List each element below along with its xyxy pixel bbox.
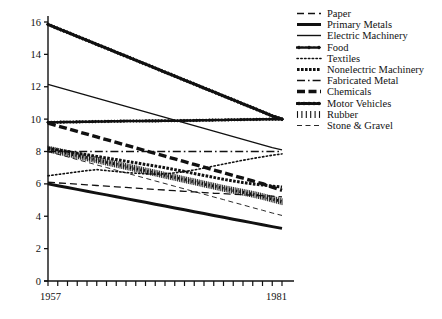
legend-item-label: Stone & Gravel <box>327 120 393 131</box>
fine-dotted-sample <box>296 53 322 64</box>
thick-dotted-marker-sample <box>296 98 322 109</box>
legend-item[interactable]: Textiles <box>296 53 442 64</box>
legend-item[interactable]: Food <box>296 42 442 53</box>
y-tick-label: 14 <box>31 49 42 60</box>
dotted-marker-sample <box>296 42 322 53</box>
plot-area: 024681012141619571981 <box>0 0 300 319</box>
legend-item-label: Fabricated Metal <box>327 75 398 86</box>
thick-dotted-sample <box>296 64 322 75</box>
y-tick-label: 16 <box>31 17 42 28</box>
legend-item[interactable]: Primary Metals <box>296 19 442 30</box>
y-tick-label: 10 <box>31 114 42 125</box>
y-tick-label: 0 <box>36 276 41 287</box>
thin-dashed-sample <box>296 120 322 131</box>
legend-item[interactable]: Paper <box>296 8 442 19</box>
chart-figure: 024681012141619571981 PaperPrimary Metal… <box>0 0 442 319</box>
legend-item-label: Textiles <box>327 53 360 64</box>
legend-item[interactable]: Rubber <box>296 109 442 120</box>
solid-sample <box>296 30 322 41</box>
y-tick-label: 12 <box>31 81 42 92</box>
plot-svg: 024681012141619571981 <box>0 0 300 319</box>
legend-item[interactable]: Chemicals <box>296 86 442 97</box>
y-tick-label: 2 <box>36 243 41 254</box>
x-axis-label-start: 1957 <box>40 291 61 302</box>
legend-item-label: Motor Vehicles <box>327 98 391 109</box>
legend-item[interactable]: Electric Machinery <box>296 30 442 41</box>
legend-marker <box>297 45 301 49</box>
legend-item[interactable]: Stone & Gravel <box>296 120 442 131</box>
x-axis-label-end: 1981 <box>266 291 287 302</box>
hatched-sample <box>296 109 322 120</box>
legend-marker <box>307 45 311 49</box>
dashed-sample <box>296 8 322 19</box>
thick-solid-sample <box>296 19 322 30</box>
legend-marker <box>317 45 321 49</box>
thick-dashed-sample <box>296 86 322 97</box>
dash-dot-sample <box>296 75 322 86</box>
legend-item-label: Chemicals <box>327 86 371 97</box>
y-tick-label: 8 <box>36 146 41 157</box>
legend-item-label: Primary Metals <box>327 19 392 30</box>
chart-legend: PaperPrimary MetalsElectric MachineryFoo… <box>296 8 442 131</box>
y-tick-label: 6 <box>36 178 41 189</box>
series-line-nonelectric-machinery <box>48 148 282 187</box>
legend-item-label: Paper <box>327 8 351 19</box>
y-tick-label: 4 <box>36 211 42 222</box>
legend-item-label: Rubber <box>327 109 358 120</box>
legend-item[interactable]: Motor Vehicles <box>296 98 442 109</box>
legend-item[interactable]: Fabricated Metal <box>296 75 442 86</box>
legend-item-label: Electric Machinery <box>327 30 408 41</box>
legend-item-label: Food <box>327 42 349 53</box>
series-line-electric-machinery <box>48 84 282 150</box>
legend-item-label: Nonelectric Machinery <box>327 64 424 75</box>
legend-item[interactable]: Nonelectric Machinery <box>296 64 442 75</box>
